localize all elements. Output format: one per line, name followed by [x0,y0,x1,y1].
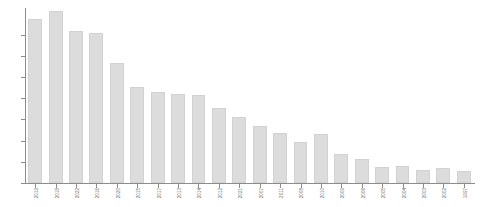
x-label-slot: 2003 [413,188,433,207]
bar-slot [147,8,167,183]
x-axis-labels: 2019201820222016202020152017201320142012… [25,188,474,207]
x-tick-label: 2013 [178,188,183,198]
y-tick: 80 [0,98,25,99]
bar-slot [66,8,86,183]
x-tick-label: 2017 [158,188,163,198]
bar-slot [168,8,188,183]
x-label-slot: 2019 [25,188,45,207]
bar-slot [454,8,474,183]
bar-slot [352,8,372,183]
bar[interactable] [28,19,42,183]
bar-slot [433,8,453,183]
x-tick-label: 2016 [96,188,101,198]
x-tick-label: 2018 [56,188,61,198]
bar[interactable] [416,170,430,183]
bar[interactable] [69,31,83,183]
y-tick: 120 [0,56,25,57]
x-tick-label: 2009 [341,188,346,198]
bar-series [25,8,474,183]
x-tick-label: 2004 [403,188,408,198]
bar-slot [45,8,65,183]
bar[interactable] [457,171,471,183]
bar[interactable] [253,126,267,183]
x-label-slot: 2008 [290,188,310,207]
x-label-slot: 2006 [352,188,372,207]
bar[interactable] [355,159,369,183]
bar[interactable] [89,33,103,183]
bar-slot [127,8,147,183]
x-label-slot: 2004 [392,188,412,207]
bar-slot [188,8,208,183]
x-tick-label: 2007 [260,188,265,198]
bar[interactable] [375,167,389,183]
bar-slot [311,8,331,183]
x-label-slot: 2010 [311,188,331,207]
bar-slot [229,8,249,183]
x-tick-label: 2022 [76,188,81,198]
bar-slot [331,8,351,183]
bar-slot [372,8,392,183]
x-label-slot: 1997 [454,188,474,207]
bar[interactable] [334,154,348,183]
x-label-slot: 2002 [433,188,453,207]
bar-slot [86,8,106,183]
y-tick: 20 [0,162,25,163]
bar[interactable] [49,11,63,183]
bar[interactable] [110,63,124,183]
x-tick-label: 2003 [423,188,428,198]
y-tick: 0 [0,183,25,184]
x-label-slot: 2022 [66,188,86,207]
x-label-slot: 2011 [270,188,290,207]
bar-slot [413,8,433,183]
x-tick-label: 2010 [321,188,326,198]
x-label-slot: 2014 [188,188,208,207]
x-tick-label: 1997 [464,188,469,198]
bar[interactable] [232,117,246,183]
bar-slot [290,8,310,183]
y-tick: 60 [0,119,25,120]
bar[interactable] [171,94,185,183]
bar[interactable] [212,108,226,183]
bar-slot [392,8,412,183]
bar-slot [107,8,127,183]
bar-slot [25,8,45,183]
bar[interactable] [436,168,450,183]
bar-slot [249,8,269,183]
x-tick-label: 2002 [443,188,448,198]
y-tick: 40 [0,141,25,142]
x-label-slot: 2009 [331,188,351,207]
bar[interactable] [396,166,410,183]
y-tick: 100 [0,77,25,78]
x-tick-label: 2006 [362,188,367,198]
x-tick-label: 2021 [239,188,244,198]
x-label-slot: 2007 [249,188,269,207]
x-label-slot: 2005 [372,188,392,207]
x-axis-line [25,183,475,184]
bar[interactable] [273,133,287,183]
plot-area [25,8,474,183]
bar[interactable] [151,92,165,183]
x-label-slot: 2013 [168,188,188,207]
bar-slot [270,8,290,183]
bar[interactable] [130,87,144,184]
x-label-slot: 2017 [147,188,167,207]
x-label-slot: 2012 [209,188,229,207]
x-label-slot: 2020 [107,188,127,207]
x-tick-label: 2014 [198,188,203,198]
x-label-slot: 2021 [229,188,249,207]
x-tick-label: 2020 [117,188,122,198]
y-tick: 140 [0,35,25,36]
x-label-slot: 2018 [45,188,65,207]
bar[interactable] [314,134,328,183]
bar[interactable] [294,142,308,183]
bar-chart: 020406080100120140 201920182022201620202… [0,0,481,207]
x-tick-label: 2008 [300,188,305,198]
x-tick-label: 2005 [382,188,387,198]
x-tick-label: 2015 [137,188,142,198]
x-label-slot: 2015 [127,188,147,207]
x-label-slot: 2016 [86,188,106,207]
bar[interactable] [192,95,206,183]
x-tick-label: 2019 [35,188,40,198]
x-tick-label: 2011 [280,188,285,198]
x-tick-label: 2012 [219,188,224,198]
